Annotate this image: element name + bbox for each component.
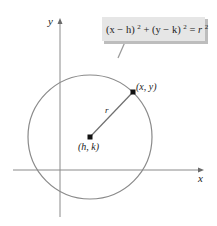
- x-axis-label: x: [197, 172, 203, 184]
- y-axis-label: y: [47, 15, 53, 27]
- center-point: [88, 135, 93, 140]
- radius-line: [90, 92, 133, 137]
- circle-equation-diagram: x y r (h, k) (x, y) (x − h) 2 + (y − k) …: [0, 0, 217, 226]
- y-axis-arrow-icon: [58, 18, 63, 24]
- axes: x y: [13, 15, 204, 217]
- radius-label: r: [105, 105, 109, 115]
- center-label: (h, k): [78, 141, 100, 153]
- equation-callout: (x − h) 2 + (y − k) 2 = r 2: [102, 17, 209, 58]
- point-label: (x, y): [136, 81, 157, 93]
- callout-pointer: [118, 42, 125, 58]
- circle-point: [131, 90, 136, 95]
